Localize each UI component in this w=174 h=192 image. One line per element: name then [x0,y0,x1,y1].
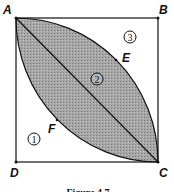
label-d: D [10,166,19,180]
region-3-label: 3 [128,32,133,43]
region-1-label: 1 [32,134,37,145]
label-f: F [48,122,56,136]
figure-caption: Figure 4.7 [66,187,109,192]
label-c: C [159,166,168,180]
region-2-label: 2 [95,74,100,85]
label-a: A [2,3,12,17]
label-b: B [159,3,168,17]
geometry-figure: A B C D E F 3 2 1 Figure 4.7 [0,0,174,192]
label-e: E [122,51,131,65]
